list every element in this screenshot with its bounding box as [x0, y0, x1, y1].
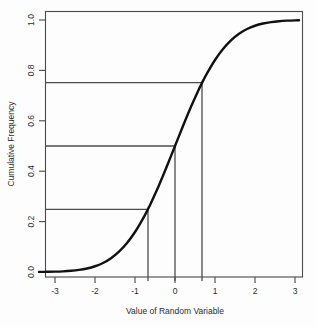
x-tick-label: 1	[213, 286, 218, 296]
x-tick-label: 2	[253, 286, 258, 296]
x-tick-label: 3	[293, 286, 298, 296]
x-tick-label: -3	[51, 286, 59, 296]
cumulative-frequency-chart: -3 -2 -1 0 1 2 3 0.0 0.2 0.4 0.6 0.8 1.0…	[0, 0, 316, 327]
x-axis-title: Value of Random Variable	[126, 306, 224, 316]
x-tick-label: -2	[91, 286, 99, 296]
x-tick-label: -1	[131, 286, 139, 296]
y-tick-label: 0.4	[26, 165, 36, 177]
y-tick-label: 1.0	[26, 14, 36, 26]
y-axis-title: Cumulative Frequency	[6, 101, 16, 187]
chart-screenshot: -3 -2 -1 0 1 2 3 0.0 0.2 0.4 0.6 0.8 1.0…	[0, 0, 316, 327]
y-tick-label: 0.6	[26, 115, 36, 127]
y-tick-label: 0.2	[26, 215, 36, 227]
chart-background	[0, 0, 316, 327]
y-tick-label: 0.0	[26, 266, 36, 278]
x-tick-label: 0	[173, 286, 178, 296]
y-tick-label: 0.8	[26, 64, 36, 76]
